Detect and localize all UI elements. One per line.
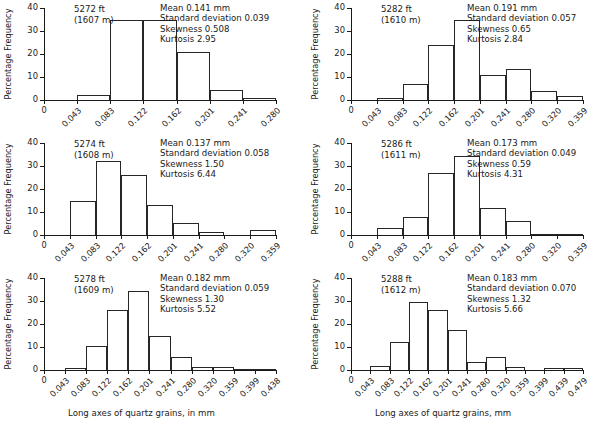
statistics-annotation: Mean 0.183 mm Standard deviation 0.070 S… <box>467 273 576 315</box>
x-tick-mark <box>44 235 45 239</box>
histogram-bar <box>390 342 409 370</box>
x-axis-line <box>44 370 276 371</box>
x-tick-mark <box>583 370 584 374</box>
x-tick-label: 0.201 <box>460 241 486 267</box>
y-tick-label: 0 <box>33 94 38 105</box>
y-tick-label: 10 <box>27 341 38 352</box>
y-axis-line <box>351 278 352 370</box>
x-tick-label: 0 <box>34 241 54 250</box>
histogram-bar <box>506 367 525 370</box>
depth-annotation: 5274 ft (1608 m) <box>74 139 114 160</box>
x-tick-mark <box>255 370 256 374</box>
y-tick-mark <box>40 8 44 9</box>
histogram-panel: Percentage Frequency01020304000.0430.083… <box>0 270 307 422</box>
x-tick-label: 0.083 <box>66 376 92 402</box>
histogram-bar <box>564 368 583 370</box>
y-tick-mark <box>40 166 44 167</box>
histogram-bar <box>107 310 128 370</box>
x-tick-mark <box>107 370 108 374</box>
histogram-bar <box>403 84 429 100</box>
y-axis-label: Percentage Frequency <box>2 274 14 374</box>
x-tick-mark <box>557 235 558 239</box>
x-axis-line <box>44 100 276 101</box>
x-tick-mark <box>276 100 277 104</box>
y-tick-mark <box>40 77 44 78</box>
histogram-bar <box>409 302 428 370</box>
x-tick-mark <box>147 235 148 239</box>
histogram-bar <box>480 75 506 100</box>
y-tick-mark <box>40 347 44 348</box>
depth-annotation: 5278 ft (1609 m) <box>74 274 114 295</box>
x-tick-mark <box>276 370 277 374</box>
y-tick-mark <box>40 212 44 213</box>
y-axis-label: Percentage Frequency <box>2 139 14 239</box>
histogram-bar <box>506 69 532 100</box>
histogram-bar <box>65 368 86 370</box>
x-tick-mark <box>128 370 129 374</box>
x-tick-mark <box>390 370 391 374</box>
x-tick-label: 0.162 <box>157 106 183 132</box>
x-axis-label: Long axes of quartz grains, mm <box>375 408 511 419</box>
x-tick-label: 0.122 <box>124 106 150 132</box>
x-tick-mark <box>428 370 429 374</box>
depth-annotation: 5286 ft (1611 m) <box>381 139 421 160</box>
histogram-bar <box>177 52 210 100</box>
statistics-annotation: Mean 0.137 mm Standard deviation 0.058 S… <box>160 138 269 180</box>
y-tick-mark <box>347 77 351 78</box>
histogram-bar <box>110 20 143 101</box>
x-tick-label: 0.359 <box>563 241 589 267</box>
statistics-annotation: Mean 0.141 mm Standard deviation 0.039 S… <box>160 3 269 45</box>
x-tick-mark <box>564 370 565 374</box>
histogram-panel: Percentage Frequency01020304000.0430.083… <box>0 0 307 135</box>
y-tick-label: 20 <box>334 183 345 194</box>
y-tick-mark <box>40 54 44 55</box>
x-tick-mark <box>70 235 71 239</box>
y-tick-mark <box>347 278 351 279</box>
histogram-bar <box>377 98 403 100</box>
x-tick-mark <box>173 235 174 239</box>
x-tick-label: 0.320 <box>537 106 563 132</box>
y-tick-mark <box>347 143 351 144</box>
x-tick-mark <box>224 235 225 239</box>
depth-annotation: 5282 ft (1610 m) <box>381 4 421 25</box>
x-tick-mark <box>480 235 481 239</box>
y-tick-label: 40 <box>334 2 345 13</box>
statistics-annotation: Mean 0.191 mm Standard deviation 0.057 S… <box>467 3 576 45</box>
y-tick-label: 30 <box>27 160 38 171</box>
histogram-bar <box>171 357 192 370</box>
x-tick-label: 0 <box>34 376 54 385</box>
y-axis-line <box>44 8 45 100</box>
x-tick-mark <box>276 235 277 239</box>
x-tick-label: 0.201 <box>130 376 156 402</box>
y-axis-label: Percentage Frequency <box>309 4 321 104</box>
y-axis-line <box>44 278 45 370</box>
x-axis-line <box>351 100 583 101</box>
x-tick-label: 0.083 <box>90 106 116 132</box>
x-tick-label: 0.399 <box>235 376 261 402</box>
x-tick-label: 0 <box>341 376 361 385</box>
x-tick-label: 0.320 <box>230 241 256 267</box>
x-tick-mark <box>409 370 410 374</box>
y-tick-mark <box>40 301 44 302</box>
x-tick-label: 0.359 <box>563 106 589 132</box>
x-tick-label: 0.201 <box>153 241 179 267</box>
histogram-bar <box>149 336 170 370</box>
x-tick-label: 0.280 <box>256 106 282 132</box>
histogram-bar <box>428 310 447 370</box>
histogram-bar <box>243 98 276 100</box>
x-tick-mark <box>110 100 111 104</box>
y-tick-mark <box>40 324 44 325</box>
y-tick-mark <box>347 189 351 190</box>
x-tick-mark <box>506 100 507 104</box>
histogram-bar <box>428 45 454 100</box>
x-tick-label: 0.201 <box>460 106 486 132</box>
histogram-bar <box>96 161 122 235</box>
x-tick-label: 0.122 <box>409 106 435 132</box>
x-tick-mark <box>377 100 378 104</box>
x-tick-mark <box>544 370 545 374</box>
histogram-bar <box>213 367 234 370</box>
histogram-bar <box>370 366 389 370</box>
y-tick-label: 10 <box>27 206 38 217</box>
x-tick-mark <box>243 100 244 104</box>
y-tick-label: 0 <box>340 94 345 105</box>
